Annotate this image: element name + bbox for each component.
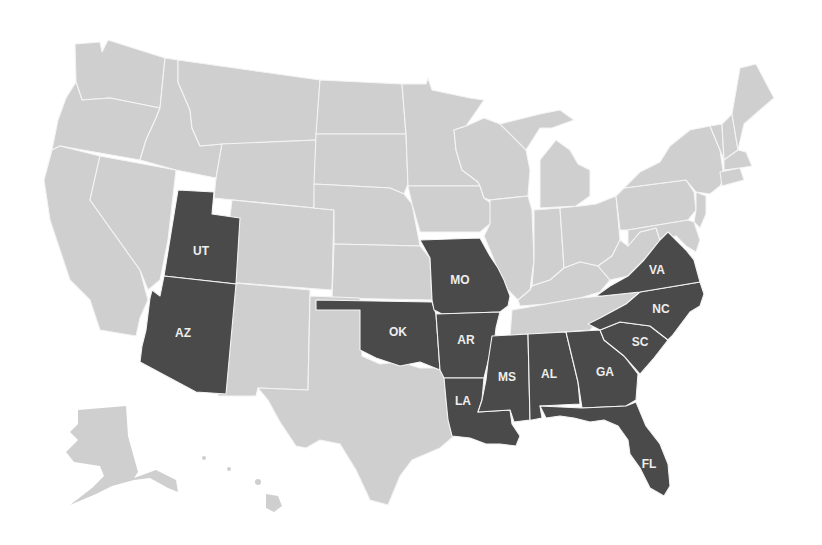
state-mt[interactable] [178,60,320,146]
label-ga: GA [596,365,614,379]
state-wy[interactable] [214,140,316,208]
state-fl[interactable] [540,402,670,496]
hawaii-island-maui [255,479,261,485]
label-fl: FL [642,457,657,471]
state-co[interactable] [224,200,334,290]
label-ms: MS [498,370,516,384]
state-me[interactable] [732,64,774,150]
label-ok: OK [389,325,407,339]
hawaii-island-kauai [202,456,206,460]
label-mo: MO [450,273,469,287]
label-va: VA [649,263,665,277]
state-nd[interactable] [316,80,406,134]
label-sc: SC [632,335,649,349]
state-ak[interactable] [66,406,178,505]
inset-alaska [66,406,178,505]
state-nj[interactable] [694,192,706,228]
hawaii-island-big[interactable] [266,494,282,512]
state-ks[interactable] [332,244,432,300]
state-ct-ri[interactable] [720,168,744,186]
us-states-map: UT AZ OK MO AR LA MS AL GA SC NC VA FL [0,0,822,545]
state-ia[interactable] [408,186,492,232]
label-ut: UT [193,244,210,258]
label-nc: NC [652,302,670,316]
label-az: AZ [175,326,191,340]
state-wa[interactable] [75,40,165,108]
label-al: AL [541,367,557,381]
label-ar: AR [457,333,475,347]
hawaii-island-oahu [227,467,231,471]
label-la: LA [455,394,471,408]
state-ut[interactable] [164,190,240,284]
inset-hawaii [202,456,282,512]
